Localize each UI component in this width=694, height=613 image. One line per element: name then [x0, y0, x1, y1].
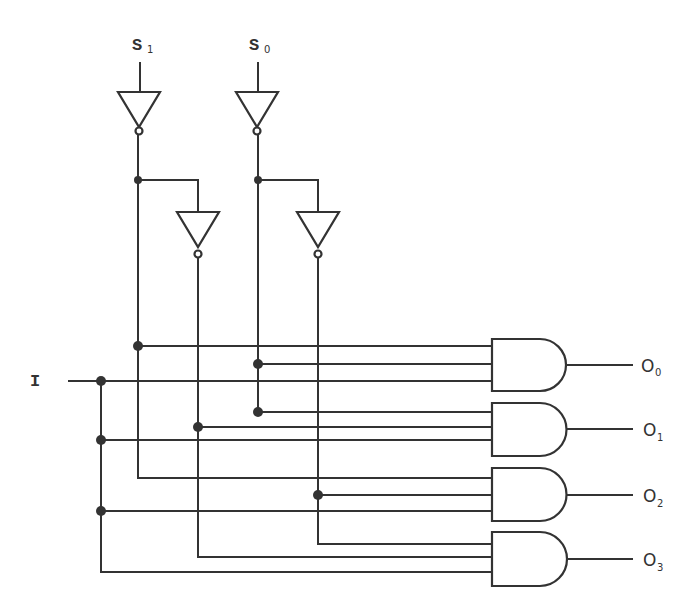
svg-text:O: O — [643, 420, 656, 440]
svg-text:0: 0 — [655, 367, 661, 378]
not-gate-s0 — [236, 92, 278, 135]
wire-s0-bar — [258, 135, 492, 412]
svg-text:S: S — [249, 36, 259, 55]
svg-text:O: O — [643, 486, 656, 506]
inversion-bubble-icon — [315, 251, 322, 258]
output-label-o1: O 1 — [643, 420, 663, 443]
junction-dot — [133, 341, 143, 351]
svg-text:0: 0 — [264, 44, 270, 55]
output-label-o0: O 0 — [641, 356, 661, 378]
svg-text:1: 1 — [147, 44, 153, 55]
junction-dot — [96, 435, 106, 445]
inversion-bubble-icon — [136, 128, 143, 135]
junction-dot — [96, 506, 106, 516]
svg-text:3: 3 — [657, 562, 663, 573]
and-gate-1 — [492, 403, 567, 456]
wire-s0 — [318, 258, 492, 544]
junction-dot — [96, 376, 106, 386]
svg-text:O: O — [641, 356, 654, 376]
junction-dot — [193, 422, 203, 432]
inversion-bubble-icon — [195, 251, 202, 258]
svg-text:S: S — [132, 36, 142, 55]
inversion-bubble-icon — [254, 128, 261, 135]
junction-dot — [253, 407, 263, 417]
svg-text:I: I — [30, 372, 40, 391]
demux-circuit: S 1 S 0 I — [0, 0, 694, 613]
svg-text:O: O — [643, 550, 656, 570]
input-label-s1: S 1 — [132, 36, 153, 55]
and-gate-3 — [492, 532, 567, 586]
and-gate-2 — [492, 468, 567, 521]
not-gate-s0-double — [297, 212, 339, 258]
svg-text:2: 2 — [657, 498, 663, 509]
not-gate-s1 — [118, 92, 160, 135]
junction-dot — [254, 176, 262, 184]
svg-text:1: 1 — [657, 432, 663, 443]
wire-s1 — [198, 258, 492, 557]
junction-dot — [253, 359, 263, 369]
output-label-o3: O 3 — [643, 550, 663, 573]
junction-dot — [134, 176, 142, 184]
wire-s0-bar-branch — [258, 180, 318, 211]
not-gate-s1-double — [177, 212, 219, 258]
junction-dot — [313, 490, 323, 500]
output-label-o2: O 2 — [643, 486, 663, 509]
wire-s1-bar-branch — [138, 180, 198, 211]
and-gate-0 — [492, 339, 566, 391]
input-label-i: I — [30, 372, 40, 391]
input-label-s0: S 0 — [249, 36, 270, 55]
